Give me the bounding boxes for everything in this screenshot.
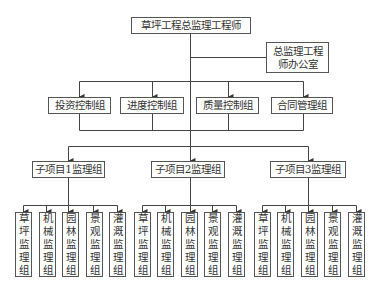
team-label-char: 景 [328,212,338,225]
team-label-char: 草 [258,212,268,225]
team-label-char: 灌 [113,212,123,225]
team-label-char: 监 [232,238,242,251]
control-group-label: 质量控制组 [203,99,253,112]
team-label-char: 理 [232,251,242,264]
team-label-char: 组 [66,264,76,277]
team-node-2-garden: 园林监理组 [181,212,198,277]
subproject-1-node: 子项目1监理组 [32,161,105,178]
team-label-char: 监 [138,238,148,251]
team-label-char: 监 [113,238,123,251]
control-group-contract: 合同管理组 [271,97,333,114]
team-label-char: 监 [185,238,195,251]
team-label-char: 监 [352,238,362,251]
team-label-char: 械 [161,225,171,238]
team-label-char: 理 [281,251,291,264]
root-label: 草坪工程总监理工程师 [141,19,241,32]
team-label-char: 草 [19,212,29,225]
team-label-char: 械 [281,225,291,238]
team-label-char: 理 [185,251,195,264]
office-label-line1: 总监理工程 [273,45,323,58]
team-label-char: 监 [161,238,171,251]
team-label-char: 监 [258,238,268,251]
control-group-quality: 质量控制组 [196,97,259,114]
team-label-char: 组 [328,264,338,277]
team-label-char: 理 [161,251,171,264]
team-label-char: 观 [208,225,218,238]
subproject-label: 子项目3监理组 [275,163,342,176]
team-label-char: 理 [258,251,268,264]
team-label-char: 监 [43,238,53,251]
team-label-char: 坪 [258,225,268,238]
team-label-char: 理 [305,251,315,264]
team-label-char: 组 [138,264,148,277]
team-label-char: 观 [328,225,338,238]
team-label-char: 理 [90,251,100,264]
team-label-char: 监 [328,238,338,251]
team-label-char: 理 [113,251,123,264]
team-label-char: 组 [258,264,268,277]
team-label-char: 监 [66,238,76,251]
subproject-3-node: 子项目3监理组 [270,161,346,178]
team-label-char: 机 [281,212,291,225]
control-group-investment: 投资控制组 [48,97,111,114]
team-label-char: 组 [305,264,315,277]
team-label-char: 组 [208,264,218,277]
team-label-char: 监 [208,238,218,251]
team-label-char: 理 [328,251,338,264]
team-node-2-machinery: 机械监理组 [157,212,174,277]
team-node-1-garden: 园林监理组 [62,212,79,277]
root-node: 草坪工程总监理工程师 [131,17,251,34]
team-label-char: 理 [43,251,53,264]
team-label-char: 园 [66,212,76,225]
team-node-1-landscape: 景观监理组 [86,212,103,277]
team-label-char: 机 [161,212,171,225]
team-label-char: 园 [185,212,195,225]
team-label-char: 林 [66,225,76,238]
team-label-char: 组 [90,264,100,277]
subproject-label: 子项目2监理组 [155,163,222,176]
team-label-char: 机 [43,212,53,225]
team-node-3-irrigation: 灌溉监理组 [348,212,365,277]
team-label-char: 理 [138,251,148,264]
team-label-char: 组 [185,264,195,277]
org-chart: 草坪工程总监理工程师 总监理工程 师办公室 投资控制组 进度控制组 质量控制组 … [0,0,375,289]
team-node-2-irrigation: 灌溉监理组 [228,212,245,277]
control-group-label: 进度控制组 [127,99,177,112]
team-label-char: 组 [113,264,123,277]
team-label-char: 溉 [113,225,123,238]
team-label-char: 坪 [19,225,29,238]
team-label-char: 理 [66,251,76,264]
team-label-char: 观 [90,225,100,238]
team-node-3-landscape: 景观监理组 [324,212,341,277]
team-label-char: 草 [138,212,148,225]
control-group-schedule: 进度控制组 [120,97,184,114]
team-node-1-turf: 草坪监理组 [15,212,32,277]
team-label-char: 灌 [352,212,362,225]
team-label-char: 监 [90,238,100,251]
team-node-3-garden: 园林监理组 [301,212,318,277]
team-node-3-machinery: 机械监理组 [277,212,294,277]
team-label-char: 林 [305,225,315,238]
team-label-char: 溉 [352,225,362,238]
team-label-char: 理 [352,251,362,264]
team-label-char: 溉 [232,225,242,238]
team-node-1-irrigation: 灌溉监理组 [109,212,126,277]
team-label-char: 组 [161,264,171,277]
office-label-line2: 师办公室 [278,58,318,71]
subproject-2-node: 子项目2监理组 [151,161,225,178]
control-group-label: 合同管理组 [277,99,327,112]
team-label-char: 林 [185,225,195,238]
team-label-char: 园 [305,212,315,225]
team-label-char: 理 [208,251,218,264]
team-label-char: 景 [90,212,100,225]
team-label-char: 监 [281,238,291,251]
team-label-char: 组 [352,264,362,277]
team-label-char: 灌 [232,212,242,225]
team-label-char: 监 [305,238,315,251]
team-node-1-machinery: 机械监理组 [39,212,56,277]
team-label-char: 械 [43,225,53,238]
team-node-3-turf: 草坪监理组 [254,212,271,277]
team-label-char: 组 [281,264,291,277]
team-label-char: 景 [208,212,218,225]
team-label-char: 理 [19,251,29,264]
